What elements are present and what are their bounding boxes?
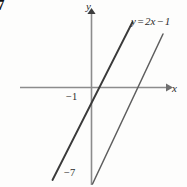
tick-label-negative-one: −1 [66, 92, 77, 103]
x-axis [20, 83, 173, 91]
equation-constant: 1 [165, 15, 171, 27]
tick-label-negative-seven: −7 [64, 168, 75, 179]
coordinate-plane-svg [0, 0, 187, 187]
line-y-equals-2x-minus-1 [53, 22, 133, 180]
equation-term: 2x [145, 15, 155, 27]
equation-equals-sign: = [136, 15, 145, 27]
y-axis-label: y [86, 1, 91, 12]
graph-figure-screenshot: 7 y x −1 −7 y=2x−1 [0, 0, 187, 187]
equation-minus-sign: − [156, 15, 165, 27]
x-axis-label: x [172, 83, 177, 94]
line-parallel-shifted [93, 34, 164, 184]
equation-annotation: y=2x−1 [131, 16, 170, 27]
